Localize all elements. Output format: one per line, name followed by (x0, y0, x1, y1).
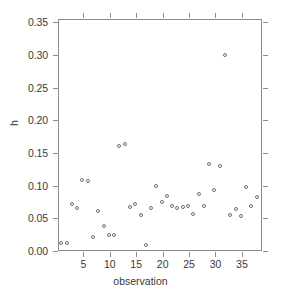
y-axis-title: h (8, 120, 20, 126)
y-tick-mark-right (263, 120, 268, 121)
x-tick-mark (110, 252, 111, 257)
x-tick-label: 20 (151, 259, 175, 270)
data-point (144, 243, 148, 247)
x-tick-label: 30 (203, 259, 227, 270)
data-point (207, 162, 211, 166)
x-tick-mark-top (189, 13, 190, 18)
data-point (218, 164, 222, 168)
data-point (107, 233, 111, 237)
data-point (160, 200, 164, 204)
x-axis-title: observation (0, 275, 281, 287)
y-tick-mark (53, 218, 58, 219)
data-point (181, 205, 185, 209)
x-tick-mark (163, 252, 164, 257)
scatter-plot-figure: 0.000.050.100.150.200.250.300.35 5101520… (0, 0, 281, 299)
y-tick-mark (53, 22, 58, 23)
data-point (65, 241, 69, 245)
x-tick-mark (242, 252, 243, 257)
data-point (91, 235, 95, 239)
data-point (255, 195, 259, 199)
x-tick-mark-top (215, 13, 216, 18)
y-tick-mark-right (263, 218, 268, 219)
y-tick-label: 0.25 (2, 83, 48, 94)
data-point (149, 206, 153, 210)
y-tick-mark (53, 88, 58, 89)
x-tick-mark-top (163, 13, 164, 18)
data-point (75, 206, 79, 210)
y-tick-label: 0.30 (2, 50, 48, 61)
y-tick-label: 0.05 (2, 213, 48, 224)
y-tick-mark (53, 120, 58, 121)
x-tick-mark (215, 252, 216, 257)
data-point (112, 233, 116, 237)
x-tick-label: 25 (177, 259, 201, 270)
y-tick-mark (53, 186, 58, 187)
x-tick-mark (189, 252, 190, 257)
data-point (70, 202, 74, 206)
y-tick-mark-right (263, 22, 268, 23)
x-tick-mark-top (242, 13, 243, 18)
x-tick-label: 35 (230, 259, 254, 270)
y-tick-mark (53, 251, 58, 252)
y-tick-label: 0.15 (2, 148, 48, 159)
data-point (139, 213, 143, 217)
y-tick-label: 0.35 (2, 17, 48, 28)
data-point (123, 142, 127, 146)
x-tick-label: 5 (71, 259, 95, 270)
data-point (186, 204, 190, 208)
y-tick-mark (53, 55, 58, 56)
x-tick-mark (83, 252, 84, 257)
data-point (133, 202, 137, 206)
data-point (86, 179, 90, 183)
y-tick-mark (53, 153, 58, 154)
data-point (197, 192, 201, 196)
y-tick-mark-right (263, 251, 268, 252)
x-tick-mark-top (110, 13, 111, 18)
y-tick-mark-right (263, 153, 268, 154)
data-point (128, 205, 132, 209)
x-tick-mark-top (83, 13, 84, 18)
data-point (102, 224, 106, 228)
x-tick-mark (136, 252, 137, 257)
data-point (244, 185, 248, 189)
y-tick-mark-right (263, 186, 268, 187)
x-tick-label: 10 (98, 259, 122, 270)
data-point (239, 214, 243, 218)
x-tick-mark-top (136, 13, 137, 18)
y-tick-mark-right (263, 55, 268, 56)
y-tick-label: 0.10 (2, 181, 48, 192)
y-tick-label: 0.00 (2, 246, 48, 257)
y-tick-mark-right (263, 88, 268, 89)
x-tick-label: 15 (124, 259, 148, 270)
